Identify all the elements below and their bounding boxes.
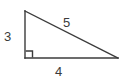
triangle-diagram-canvas: 3 5 4 xyxy=(0,0,125,84)
hypotenuse-length-label: 5 xyxy=(63,16,70,29)
right-angle-marker-icon xyxy=(26,51,33,58)
leg-b-length-label: 4 xyxy=(55,65,62,78)
hypotenuse-line xyxy=(25,11,118,58)
leg-a-length-label: 3 xyxy=(4,30,11,43)
right-triangle-figure xyxy=(0,0,125,84)
